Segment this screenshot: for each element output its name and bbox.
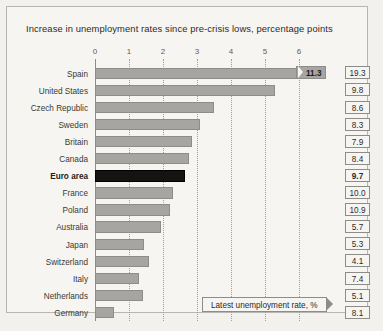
chart-row: Poland10.9 — [95, 202, 299, 219]
bar-czech-republic — [95, 102, 214, 113]
bar-spain — [95, 68, 299, 79]
axis-tick-6: 6 — [297, 47, 301, 56]
bar-france — [95, 187, 173, 198]
bar-switzerland — [95, 256, 149, 267]
bar-sweden — [95, 119, 200, 130]
row-label-czech-republic: Czech Republic — [31, 103, 88, 112]
chart-row: Euro area9.7 — [95, 168, 299, 185]
latest-rate-box-united-states: 9.8 — [345, 83, 370, 96]
chart-row: Australia5.7 — [95, 219, 299, 236]
latest-rate-box-australia: 5.7 — [345, 220, 370, 233]
latest-rate-callout: Latest unemployment rate, % — [202, 297, 327, 312]
row-label-sweden: Sweden — [58, 120, 88, 129]
chart-row: Italy7.4 — [95, 270, 299, 287]
bar-britain — [95, 136, 192, 147]
gridline-6 — [299, 59, 301, 321]
bar-break-value-spain: 11.3 — [296, 66, 326, 79]
latest-rate-box-sweden: 8.3 — [345, 118, 370, 131]
latest-rate-box-germany: 8.1 — [345, 306, 370, 319]
axis-tick-3: 3 — [195, 47, 199, 56]
chart-row: United States9.8 — [95, 82, 299, 99]
latest-rate-box-japan: 5.3 — [345, 237, 370, 250]
row-label-netherlands: Netherlands — [44, 291, 88, 300]
bar-australia — [95, 221, 161, 232]
axis-tick-2: 2 — [161, 47, 165, 56]
bar-japan — [95, 239, 144, 250]
chart-row: Canada8.4 — [95, 151, 299, 168]
chart-row: Japan5.3 — [95, 236, 299, 253]
chart-row: Switzerland4.1 — [95, 253, 299, 270]
bar-italy — [95, 273, 139, 284]
latest-rate-box-france: 10.0 — [345, 186, 370, 199]
row-label-japan: Japan — [66, 240, 88, 249]
chart-row: Spain11.319.3 — [95, 65, 299, 82]
row-label-britain: Britain — [65, 137, 88, 146]
chart-row: Britain7.9 — [95, 133, 299, 150]
row-label-australia: Australia — [56, 223, 88, 232]
bar-united-states — [95, 85, 275, 96]
row-label-germany: Germany — [54, 308, 88, 317]
axis-tick-4: 4 — [229, 47, 233, 56]
row-label-switzerland: Switzerland — [46, 257, 88, 266]
chart-title: Increase in unemployment rates since pre… — [26, 23, 333, 34]
row-label-spain: Spain — [67, 69, 88, 78]
row-label-euro-area: Euro area — [50, 172, 88, 181]
row-label-italy: Italy — [73, 274, 88, 283]
row-label-france: France — [63, 189, 88, 198]
bar-poland — [95, 204, 170, 215]
plot-area: 0123456 Spain11.319.3United States9.8Cze… — [95, 59, 299, 321]
latest-rate-box-spain: 19.3 — [345, 66, 370, 79]
bar-germany — [95, 307, 114, 318]
chart-row: Czech Republic8.6 — [95, 99, 299, 116]
row-label-poland: Poland — [63, 206, 89, 215]
axis-tick-5: 5 — [263, 47, 267, 56]
row-label-canada: Canada — [59, 155, 88, 164]
axis-tick-1: 1 — [127, 47, 131, 56]
chart-frame: Increase in unemployment rates since pre… — [6, 6, 368, 313]
latest-rate-box-canada: 8.4 — [345, 152, 370, 165]
latest-rate-box-britain: 7.9 — [345, 135, 370, 148]
latest-rate-box-switzerland: 4.1 — [345, 254, 370, 267]
bar-netherlands — [95, 290, 143, 301]
latest-rate-box-netherlands: 5.1 — [345, 289, 370, 302]
bar-canada — [95, 153, 189, 164]
latest-rate-box-euro-area: 9.7 — [345, 169, 370, 182]
latest-rate-box-italy: 7.4 — [345, 272, 370, 285]
axis-tick-0: 0 — [93, 47, 97, 56]
chart-row: France10.0 — [95, 185, 299, 202]
latest-rate-box-poland: 10.9 — [345, 203, 370, 216]
bar-euro-area — [95, 170, 185, 181]
row-label-united-states: United States — [39, 86, 88, 95]
chart-row: Sweden8.3 — [95, 116, 299, 133]
latest-rate-box-czech-republic: 8.6 — [345, 101, 370, 114]
